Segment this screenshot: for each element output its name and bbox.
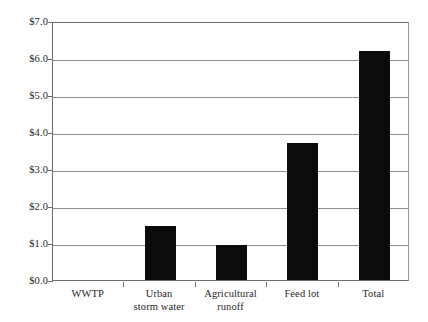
gridline — [53, 134, 408, 135]
gridline — [53, 171, 408, 172]
gridline — [53, 208, 408, 209]
y-axis-tick-label: $3.0 — [29, 165, 48, 176]
bar — [287, 143, 318, 280]
x-axis-category-label: Agricultural runoff — [195, 287, 266, 313]
x-axis-category-label: WWTP — [52, 287, 123, 300]
plot-area — [52, 22, 409, 281]
y-axis-tick-label: $4.0 — [29, 128, 48, 139]
x-axis-category-label: Feed lot — [266, 287, 337, 300]
y-axis-tick-mark — [48, 281, 53, 282]
bar — [145, 226, 176, 280]
y-axis-tick-label: $1.0 — [29, 239, 48, 250]
bar — [216, 245, 247, 280]
y-axis-tick-label: $6.0 — [29, 54, 48, 65]
x-axis-category-label: Total — [338, 287, 409, 300]
gridline — [53, 97, 408, 98]
gridline — [53, 60, 408, 61]
bar — [359, 51, 390, 280]
x-axis-category-label: Urban storm water — [123, 287, 194, 313]
bar-chart: $0.0$1.0$2.0$3.0$4.0$5.0$6.0$7.0 WWTPUrb… — [0, 0, 428, 322]
y-axis-tick-label: $7.0 — [29, 17, 48, 28]
y-axis-tick-label: $5.0 — [29, 91, 48, 102]
y-axis-tick-label: $0.0 — [29, 276, 48, 287]
y-axis-tick-label: $2.0 — [29, 202, 48, 213]
